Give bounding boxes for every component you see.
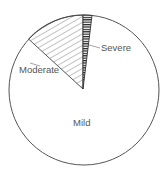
label-severe: Severe xyxy=(101,42,131,53)
label-moderate: Moderate xyxy=(19,64,59,75)
label-mild: Mild xyxy=(73,117,90,128)
pie-chart: Severe Moderate Mild xyxy=(0,0,166,174)
